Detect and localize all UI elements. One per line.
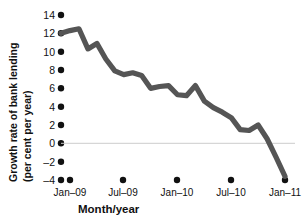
y-tick-dot: [58, 12, 64, 18]
x-tick-label: Jan–11: [269, 187, 302, 198]
x-tick-label: Jan–09: [54, 187, 87, 198]
y-tick-label: –4: [43, 174, 55, 186]
y-tick-label: 0: [49, 137, 55, 149]
y-axis-title: Growth rate of bank lending (per cent pe…: [7, 43, 33, 182]
x-tick-label: Jan–10: [161, 187, 194, 198]
y-tick-dot: [58, 49, 64, 55]
x-axis-labels: Jan–09 Jul–09 Jan–10 Jul–10 Jan–11: [54, 187, 302, 198]
y-tick-dot: [58, 67, 64, 73]
y-tick-label: 4: [49, 101, 55, 113]
y-tick-dot: [58, 159, 64, 165]
chart-svg: Growth rate of bank lending (per cent pe…: [0, 0, 304, 224]
y-tick-label: 2: [49, 119, 55, 131]
x-tick-dot: [120, 177, 126, 183]
y-tick-label: 6: [49, 82, 55, 94]
y-tick-dot: [58, 122, 64, 128]
y-axis-title-line2: (per cent per year): [21, 90, 33, 182]
y-tick-dot: [58, 85, 64, 91]
y-axis-title-line1: Growth rate of bank lending: [7, 43, 19, 182]
y-tick-label: 8: [49, 64, 55, 76]
x-tick-label: Jul–09: [108, 187, 138, 198]
y-tick-dot: [58, 104, 64, 110]
bank-lending-growth-chart: Growth rate of bank lending (per cent pe…: [0, 0, 304, 224]
x-axis-ticks: [67, 177, 288, 183]
x-tick-dot: [174, 177, 180, 183]
x-tick-dot: [228, 177, 234, 183]
data-series-line: [61, 29, 285, 177]
y-tick-label: 10: [43, 46, 55, 58]
x-tick-dot: [67, 177, 73, 183]
y-tick-label: 12: [43, 27, 55, 39]
y-tick-label: 14: [43, 9, 55, 21]
y-tick-label: –2: [43, 156, 55, 168]
x-tick-label: Jul–10: [216, 187, 246, 198]
x-axis-title: Month/year: [78, 203, 140, 215]
y-tick-dot: [58, 177, 64, 183]
